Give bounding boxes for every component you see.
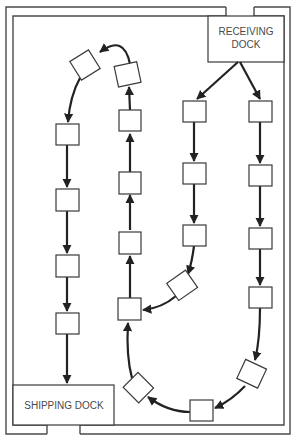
station [249, 165, 272, 186]
receiving-dock: RECEIVING DOCK [208, 16, 284, 62]
station [119, 110, 141, 131]
flow-arrow [143, 296, 176, 310]
flow-arrow [215, 386, 245, 408]
flow-arrow [197, 62, 238, 99]
receiving-dock-label-line1: RECEIVING [218, 26, 273, 37]
station [56, 255, 79, 277]
station [183, 225, 206, 246]
station [119, 232, 141, 254]
station [249, 228, 272, 249]
station [56, 189, 79, 211]
shipping-dock-label: SHIPPING DOCK [24, 400, 104, 411]
station [237, 359, 267, 388]
flow-arrow [128, 323, 133, 378]
flow-arrow [255, 308, 260, 360]
station [119, 172, 141, 194]
station [183, 101, 206, 122]
flow-arrow [68, 78, 80, 122]
station [167, 270, 198, 300]
shipping-dock: SHIPPING DOCK [13, 385, 114, 425]
flow-arrow [148, 397, 190, 412]
flow-arrows [67, 45, 260, 412]
station [56, 124, 79, 145]
flow-arrow [188, 246, 194, 274]
flow-arrow [129, 87, 130, 110]
warehouse-diagram: RECEIVING DOCK SHIPPING DOCK [0, 0, 296, 444]
flow-arrow [240, 62, 260, 99]
station [118, 298, 141, 320]
station [249, 287, 272, 308]
station [249, 101, 272, 122]
stations [56, 50, 272, 421]
station [190, 400, 213, 421]
station [183, 163, 206, 184]
flow-arrow [100, 45, 130, 64]
station [70, 50, 100, 80]
station [114, 62, 141, 87]
receiving-dock-label-line2: DOCK [232, 39, 261, 50]
station [56, 313, 79, 334]
